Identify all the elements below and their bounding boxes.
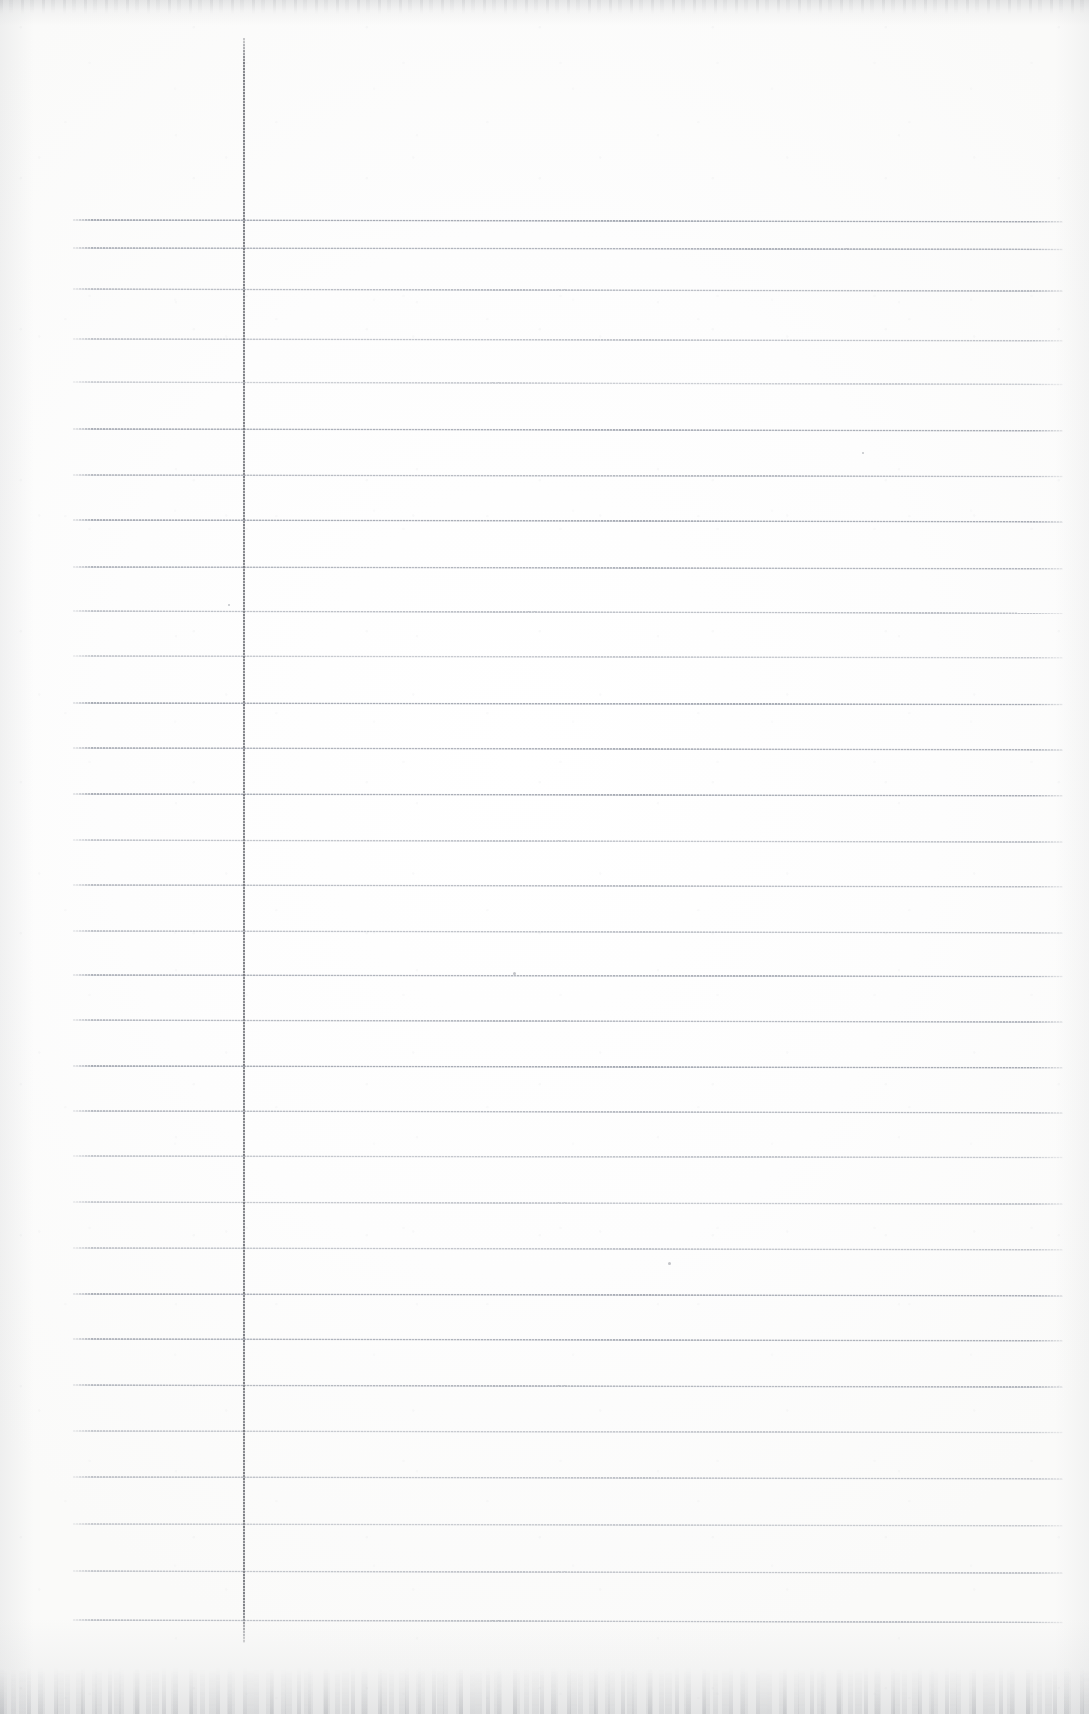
ruled-line-halo [73, 1571, 1063, 1574]
ruled-line-halo [73, 475, 1063, 478]
ruled-line [73, 247, 1063, 250]
ruled-line-halo [73, 656, 1063, 659]
ruled-line [73, 702, 1063, 706]
ruled-line [73, 519, 1063, 523]
ruled-line-halo [73, 840, 1063, 843]
ruled-line-halo [73, 1620, 1063, 1623]
ruled-line [73, 1065, 1063, 1069]
vertical-margin-rule [243, 38, 245, 1643]
ruled-line-halo [73, 1020, 1063, 1023]
ruled-line-halo [73, 382, 1063, 385]
ruled-line-halo [73, 1294, 1063, 1297]
ruled-line-halo [73, 885, 1063, 888]
ruled-line-halo [73, 1477, 1063, 1480]
ruled-line [73, 793, 1063, 797]
ruled-line [73, 474, 1063, 478]
ruled-line-halo [73, 289, 1063, 292]
ruled-line-halo [73, 339, 1063, 342]
ruled-line-halo [73, 931, 1063, 934]
ruled-line-halo [73, 220, 1063, 223]
ruled-line [73, 839, 1063, 843]
ruled-line-halo [73, 1524, 1063, 1527]
ruled-line [73, 1338, 1063, 1342]
ruled-line-halo [73, 975, 1063, 978]
ruled-line [73, 1619, 1063, 1623]
ruled-line-halo [73, 1202, 1063, 1205]
ruled-line-halo [73, 248, 1063, 250]
ruled-line-halo [73, 748, 1063, 751]
ruled-line [73, 655, 1063, 659]
ruled-line [73, 566, 1063, 570]
ruled-line [73, 1384, 1063, 1388]
ruled-line [73, 1201, 1063, 1205]
ruled-line [73, 930, 1063, 934]
ruled-line-halo [73, 1156, 1063, 1159]
ruled-lines-area [0, 0, 1089, 1714]
ruled-line [73, 747, 1063, 751]
ruled-line [73, 288, 1063, 292]
ruled-line [73, 1570, 1063, 1574]
ruled-line [73, 1430, 1063, 1434]
ruled-line-halo [73, 1339, 1063, 1342]
ruled-line [73, 974, 1063, 978]
ruled-line [73, 1476, 1063, 1480]
ruled-line-halo [73, 1248, 1063, 1251]
ruled-line-halo [73, 1066, 1063, 1069]
ruled-line-halo [73, 1111, 1063, 1114]
ruled-line-halo [73, 520, 1063, 523]
ruled-line [73, 381, 1063, 385]
scanned-page [0, 0, 1089, 1714]
ruled-line [73, 219, 1063, 223]
ruled-line-halo [73, 567, 1063, 570]
ruled-line-halo [73, 611, 1063, 614]
ruled-line [73, 1247, 1063, 1251]
ruled-line [73, 338, 1063, 342]
ruled-line [73, 1155, 1063, 1159]
ruled-line [73, 884, 1063, 888]
ruled-line [73, 1019, 1063, 1023]
ruled-line-halo [73, 703, 1063, 706]
ruled-line [73, 428, 1063, 432]
ruled-line-halo [73, 1431, 1063, 1434]
ruled-line-halo [73, 794, 1063, 797]
ruled-line [73, 1293, 1063, 1297]
ruled-line-halo [73, 1385, 1063, 1388]
ruled-line [73, 610, 1063, 614]
ruled-line-halo [73, 429, 1063, 432]
ruled-line [73, 1110, 1063, 1114]
ruled-line [73, 1523, 1063, 1527]
